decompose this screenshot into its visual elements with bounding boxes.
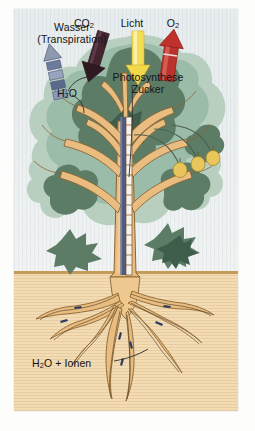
label-o2: O2 [156,17,190,32]
label-h2o-ionen: H2O + Ionen [32,357,124,372]
label-o2-text: O2 [167,17,180,29]
label-co2-text: CO2 [74,17,94,29]
vascular-stripe [121,117,133,275]
label-h2o-text: H2O [57,87,77,99]
photosynthesis-tree-figure: Wasser (Transpiration) CO2 Licht O2 Phot… [0,0,255,431]
tree-illustration [14,9,238,411]
label-zucker: Zucker [132,83,165,95]
sugar-transport-fruit [206,151,220,166]
root-system [36,277,214,401]
label-wasser-line2: (Transpiration) [37,33,106,45]
label-photosynthese: Photosynthese [113,71,184,83]
sugar-transport-fruit [173,163,187,178]
sugar-transport-fruit [191,157,205,172]
label-photosynthese-zucker: Photosynthese Zucker [92,71,204,95]
label-licht: Licht [112,17,152,29]
label-h2o-ionen-text: H2O + Ionen [32,357,91,369]
label-h2o: H2O [50,87,84,102]
label-co2: CO2 [66,17,102,32]
figure-plate: Wasser (Transpiration) CO2 Licht O2 Phot… [14,9,238,411]
